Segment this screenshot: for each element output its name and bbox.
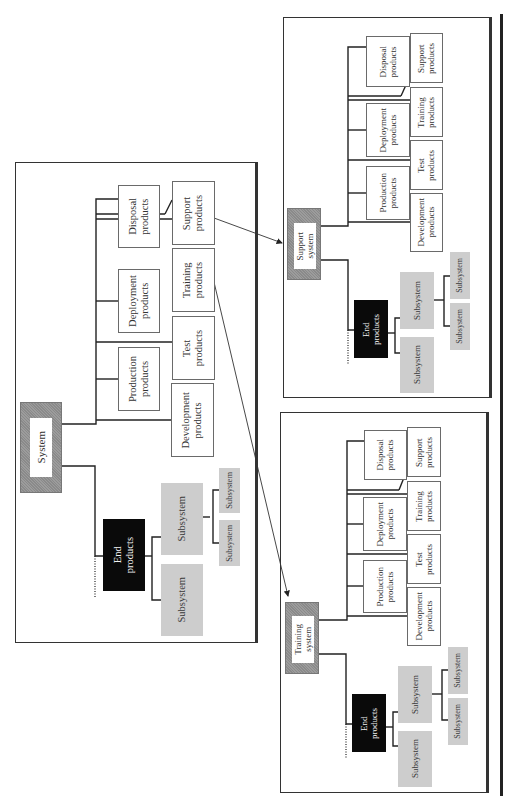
support-training-products[interactable]: Training products [410, 87, 443, 137]
training-development-products[interactable]: Development products [407, 587, 441, 646]
support-system-node[interactable]: Support system [287, 208, 321, 280]
support-production-products[interactable]: Production products [366, 166, 410, 220]
support-subsystem-1[interactable]: Subsystem [400, 272, 434, 329]
main-end-products[interactable]: End products [103, 519, 145, 591]
main-training-products[interactable]: Training products [172, 248, 215, 312]
support-subsystem-1b[interactable]: Subsystem [450, 303, 470, 350]
main-subsystem-1b[interactable]: Subsystem [219, 520, 240, 566]
support-development-products[interactable]: Development products [410, 193, 443, 252]
main-subsystem-2[interactable]: Subsystem [161, 564, 203, 636]
training-test-products[interactable]: Test products [407, 534, 441, 584]
support-deployment-products[interactable]: Deployment products [366, 103, 410, 157]
support-test-products[interactable]: Test products [410, 140, 443, 190]
support-support-products[interactable]: Support products [410, 33, 443, 83]
training-subsystem-1b[interactable]: Subsystem [448, 698, 468, 745]
main-production-products[interactable]: Production products [118, 347, 160, 411]
training-subsystem-1a[interactable]: Subsystem [448, 647, 468, 694]
main-development-products[interactable]: Development products [171, 383, 214, 457]
page-edge-rule [500, 14, 503, 796]
training-subsystem-2[interactable]: Subsystem [398, 731, 432, 787]
main-test-products[interactable]: Test products [172, 316, 215, 380]
training-support-products[interactable]: Support products [407, 427, 441, 477]
main-deployment-products[interactable]: Deployment products [118, 269, 160, 333]
training-subsystem-1[interactable]: Subsystem [398, 666, 432, 723]
support-disposal-products[interactable]: Disposal products [366, 36, 410, 87]
main-subsystem-1[interactable]: Subsystem [161, 483, 203, 555]
main-subsystem-1a[interactable]: Subsystem [219, 468, 240, 513]
training-end-products[interactable]: End products [352, 694, 386, 752]
support-subsystem-1a[interactable]: Subsystem [450, 252, 470, 299]
system-node[interactable]: System [20, 402, 62, 493]
main-support-products[interactable]: Support products [172, 181, 215, 245]
training-system-node[interactable]: Training system [285, 602, 319, 674]
system-label: System [35, 431, 48, 463]
training-production-products[interactable]: Production products [363, 560, 407, 613]
support-subsystem-2[interactable]: Subsystem [400, 337, 434, 393]
training-training-products[interactable]: Training products [407, 481, 441, 531]
training-deployment-products[interactable]: Deployment products [363, 497, 407, 551]
main-disposal-products[interactable]: Disposal products [118, 185, 160, 248]
training-disposal-products[interactable]: Disposal products [364, 430, 407, 480]
support-end-products[interactable]: End products [354, 300, 388, 358]
